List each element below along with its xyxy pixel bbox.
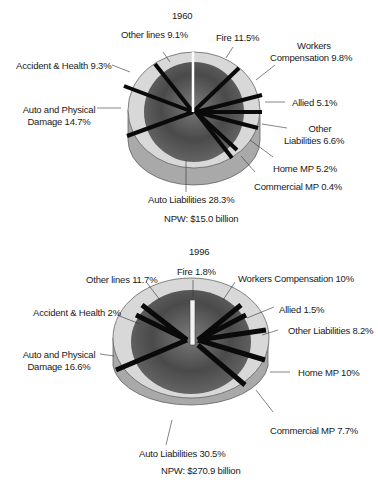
label-1996-auto-physical-2: Damage 16.6% — [22, 361, 96, 372]
label-1960-auto-liabilities: Auto Liabilities 28.3% — [148, 194, 234, 205]
chart1-title: 1960 — [172, 10, 192, 21]
label-1996-allied: Allied 1.5% — [279, 304, 324, 315]
label-1996-workers: Workers Compensation 10% — [238, 273, 354, 284]
label-1996-other-liabilities: Other Liabilities 8.2% — [288, 325, 373, 336]
chart2-title: 1996 — [189, 246, 209, 257]
label-1960-auto-physical-1: Auto and Physical — [22, 104, 96, 115]
label-1960-accident-health: Accident & Health 9.3% — [16, 60, 111, 71]
label-1996-home-mp: Home MP 10% — [298, 367, 360, 378]
label-1960-fire: Fire 11.5% — [216, 32, 259, 43]
label-1960-auto-physical-2: Damage 14.7% — [22, 116, 96, 127]
label-1960-commercial-mp: Commercial MP 0.4% — [254, 181, 342, 192]
label-1960-allied: Allied 5.1% — [292, 97, 337, 108]
chart2-npw: NPW: $270.9 billion — [161, 465, 240, 476]
chart1-npw: NPW: $15.0 billion — [164, 213, 238, 224]
pie-1960-body — [124, 52, 262, 185]
label-1960-workers-2: Compensation 9.8% — [270, 52, 352, 63]
label-1996-fire: Fire 1.8% — [177, 266, 216, 277]
label-1960-other-liab-1: Other — [300, 123, 340, 134]
label-1996-other-lines: Other lines 11.7% — [86, 274, 157, 285]
label-1960-other-liab-2: Liabilities 6.6% — [284, 135, 344, 146]
label-1996-auto-physical-1: Auto and Physical — [22, 349, 96, 360]
label-1960-home-mp: Home MP 5.2% — [273, 163, 337, 174]
pie-chart-1960 — [0, 0, 378, 488]
label-1996-commercial-mp: Commercial MP 7.7% — [270, 425, 358, 436]
label-1996-accident-health: Accident & Health 2% — [33, 307, 121, 318]
label-1960-workers-1: Workers — [288, 40, 340, 51]
label-1996-auto-liabilities: Auto Liabilities 30.5% — [139, 448, 225, 459]
pie-1996-body — [113, 278, 269, 405]
label-1960-other-lines: Other lines 9.1% — [121, 29, 188, 40]
